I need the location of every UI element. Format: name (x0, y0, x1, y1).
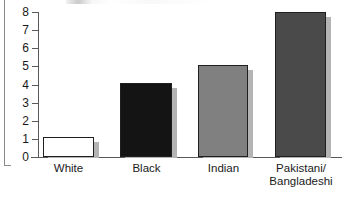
bar-indian (198, 65, 248, 157)
y-tick-6: 6 (0, 42, 29, 54)
y-tick-2: 2 (0, 115, 29, 127)
y-tick-label-1: 1 (0, 133, 29, 145)
x-axis-label-pakistani-bangladeshi: Pakistani/ Bangladeshi (261, 162, 341, 188)
y-tick-label-3: 3 (0, 97, 29, 109)
y-tick-label-8: 8 (0, 6, 29, 18)
x-axis-label-indian-line1: Indian (208, 162, 239, 174)
x-axis-label-pakistani-line2: Bangladeshi (261, 175, 341, 188)
y-tick-label-7: 7 (0, 24, 29, 36)
x-axis-label-pakistani-line1: Pakistani/ (276, 162, 326, 174)
y-tick-label-6: 6 (0, 42, 29, 54)
y-tick-mark-1 (32, 139, 39, 140)
y-tick-label-0: 0 (0, 151, 29, 163)
y-tick-label-2: 2 (0, 115, 29, 127)
x-axis-label-white-line1: White (54, 162, 83, 174)
y-tick-5: 5 (0, 60, 29, 72)
y-tick-label-4: 4 (0, 79, 29, 91)
y-tick-mark-7 (32, 30, 39, 31)
y-tick-mark-4 (32, 85, 39, 86)
bar-chart: 8 7 6 5 4 3 2 1 0 White Black (0, 0, 342, 199)
x-axis-label-white: White (33, 162, 104, 175)
cropped-title-remnant (66, 0, 216, 4)
x-axis-label-indian: Indian (188, 162, 259, 175)
y-tick-mark-0 (32, 157, 39, 158)
y-tick-mark-8 (32, 12, 39, 13)
y-tick-1: 1 (0, 133, 29, 145)
y-tick-8: 8 (0, 6, 29, 18)
x-axis-label-black: Black (111, 162, 182, 175)
bar-pakistani-bangladeshi (275, 12, 326, 157)
y-tick-mark-6 (32, 48, 39, 49)
y-tick-3: 3 (0, 97, 29, 109)
y-tick-mark-2 (32, 121, 39, 122)
y-tick-mark-3 (32, 103, 39, 104)
y-tick-label-5: 5 (0, 60, 29, 72)
y-tick-7: 7 (0, 24, 29, 36)
bar-white (43, 137, 94, 157)
y-tick-0: 0 (0, 151, 29, 163)
y-tick-4: 4 (0, 79, 29, 91)
bar-black (120, 83, 172, 157)
y-tick-mark-5 (32, 66, 39, 67)
figure-frame-bottom-stub (4, 165, 11, 166)
x-axis-label-black-line1: Black (132, 162, 160, 174)
